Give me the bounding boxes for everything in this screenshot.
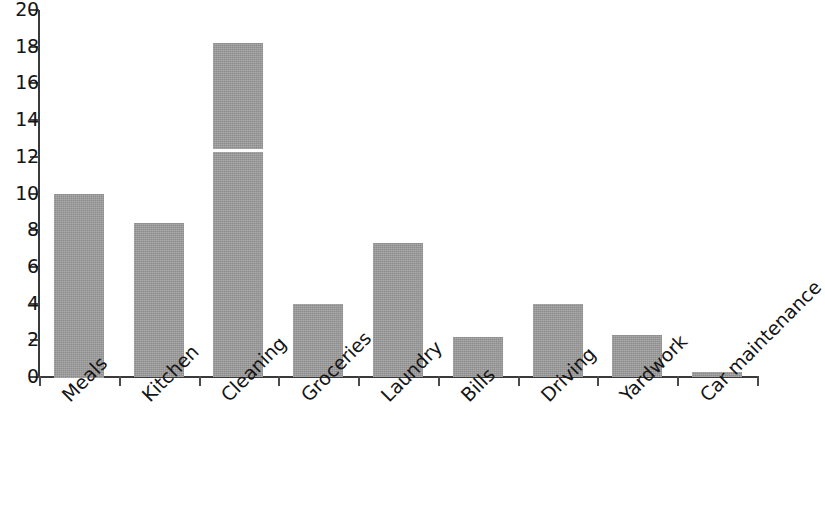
x-axis-tick-mark	[677, 376, 679, 386]
x-axis-tick-mark	[438, 376, 440, 386]
y-axis-tick-label: 18	[11, 37, 39, 56]
y-axis-tick-label: 6	[11, 257, 39, 276]
x-axis-tick-mark	[39, 376, 41, 386]
x-axis-tick-mark	[358, 376, 360, 386]
bar	[54, 194, 104, 378]
x-axis-tick-mark	[199, 376, 201, 386]
y-axis-tick-label: 4	[11, 294, 39, 313]
y-axis-tick-label: 8	[11, 220, 39, 239]
bar	[213, 43, 263, 377]
bar-segment-divider	[213, 149, 263, 152]
y-axis-tick-label: 2	[11, 330, 39, 349]
x-axis-label: Car maintenance	[696, 277, 825, 406]
x-axis-tick-mark	[757, 376, 759, 386]
y-axis-tick-label: 16	[11, 73, 39, 92]
y-axis-tick-label: 20	[11, 0, 39, 19]
y-axis-tick-label: 14	[11, 110, 39, 129]
y-axis-tick-label: 12	[11, 147, 39, 166]
x-axis-tick-mark	[518, 376, 520, 386]
y-axis-tick-label: 0	[11, 367, 39, 386]
x-axis-tick-mark	[119, 376, 121, 386]
y-axis-tick-label: 10	[11, 184, 39, 203]
x-axis-tick-mark	[278, 376, 280, 386]
x-axis-tick-mark	[597, 376, 599, 386]
